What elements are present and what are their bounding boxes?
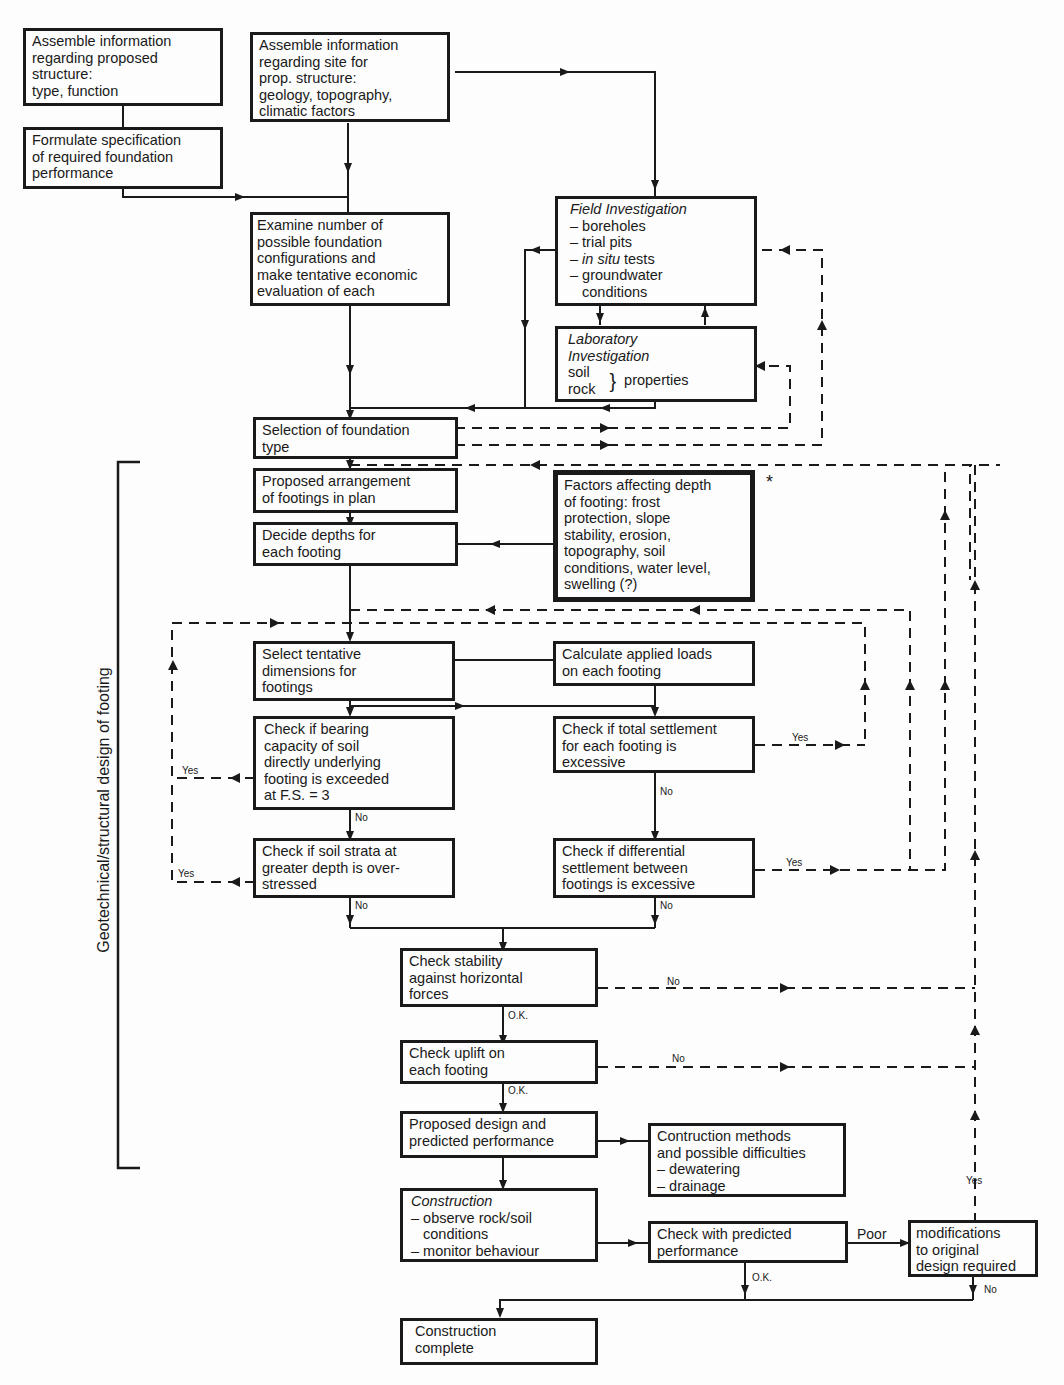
box-select-tentative-dimensions: Select tentative dimensions for footings: [253, 641, 455, 701]
box-text: Check if differential: [562, 843, 746, 860]
box-text: modifications: [916, 1225, 1029, 1242]
box-text: structure:: [32, 66, 214, 83]
box-text: footings: [262, 679, 446, 696]
soil-rock-properties: soil rock } properties: [568, 364, 748, 397]
box-text: to original: [916, 1242, 1029, 1259]
box-title: Construction: [411, 1193, 589, 1210]
box-check-bearing-capacity: Check if bearing capacity of soil direct…: [253, 716, 455, 810]
edge-label-yes: Yes: [178, 868, 194, 879]
box-text: prop. structure:: [259, 70, 441, 87]
edge-label-yes: Yes: [786, 857, 802, 868]
box-proposed-arrangement: Proposed arrangement of footings in plan: [253, 468, 458, 513]
box-check-stability-horizontal: Check stability against horizontal force…: [400, 948, 598, 1007]
box-text: climatic factors: [259, 103, 441, 120]
box-text: tests: [620, 251, 655, 267]
box-text: Proposed arrangement: [262, 473, 449, 490]
box-text: predicted performance: [409, 1133, 589, 1150]
italic-text: in situ: [582, 251, 620, 267]
box-text: performance: [32, 165, 214, 182]
box-text: directly underlying: [264, 754, 446, 771]
box-text: – dewatering: [657, 1161, 837, 1178]
box-text: conditions: [411, 1226, 589, 1243]
edge-label-poor: Poor: [857, 1226, 887, 1242]
box-text: footings is excessive: [562, 876, 746, 893]
box-text: make tentative economic: [257, 267, 441, 284]
box-text: type: [262, 439, 449, 456]
box-text: complete: [415, 1340, 589, 1357]
box-text: – trial pits: [570, 234, 748, 251]
box-text: Check stability: [409, 953, 589, 970]
box-text: Contruction methods: [657, 1128, 837, 1145]
box-text: protection, slope: [564, 510, 744, 527]
edge-label-no: No: [355, 812, 368, 823]
box-check-predicted-performance: Check with predicted performance: [648, 1221, 848, 1263]
box-text: and possible difficulties: [657, 1145, 837, 1162]
box-assemble-site-info: Assemble information regarding site for …: [250, 32, 450, 122]
edge-label-yes: Yes: [966, 1175, 982, 1186]
box-text: configurations and: [257, 250, 441, 267]
box-text: design required: [916, 1258, 1029, 1275]
section-label-geotechnical-design: Geotechnical/structural design of footin…: [95, 570, 113, 1050]
box-text: type, function: [32, 83, 214, 100]
box-text: Proposed design and: [409, 1116, 589, 1133]
box-text: Selection of foundation: [262, 422, 449, 439]
box-text: performance: [657, 1243, 839, 1260]
box-text: each footing: [409, 1062, 589, 1079]
box-text: regarding site for: [259, 54, 441, 71]
box-text: topography, soil: [564, 543, 744, 560]
edge-label-no: No: [355, 900, 368, 911]
edge-label-ok: O.K.: [508, 1010, 528, 1021]
box-text: Calculate applied loads: [562, 646, 746, 663]
box-selection-foundation-type: Selection of foundation type: [253, 417, 458, 459]
box-text: regarding proposed: [32, 50, 214, 67]
box-text: – in situ tests: [570, 251, 748, 268]
box-text: at F.S. = 3: [264, 787, 446, 804]
box-text: of footing: frost: [564, 494, 744, 511]
box-decide-depths: Decide depths for each footing: [253, 522, 458, 566]
box-text: conditions: [570, 284, 748, 301]
box-text: Check with predicted: [657, 1226, 839, 1243]
box-construction-methods: Contruction methods and possible difficu…: [648, 1123, 846, 1197]
edge-label-no: No: [672, 1053, 685, 1064]
box-text: Check if total settlement: [562, 721, 746, 738]
edge-label-yes: Yes: [182, 765, 198, 776]
box-text: each footing: [262, 544, 449, 561]
box-check-differential-settlement: Check if differential settlement between…: [553, 838, 755, 898]
box-text: Select tentative: [262, 646, 446, 663]
brace-icon: }: [609, 373, 616, 389]
box-text: of required foundation: [32, 149, 214, 166]
edge-label-no: No: [660, 786, 673, 797]
asterisk-footnote-icon: *: [766, 472, 773, 493]
box-text: Construction: [415, 1323, 589, 1340]
box-title: Laboratory: [568, 331, 748, 348]
box-text: possible foundation: [257, 234, 441, 251]
box-text: – drainage: [657, 1178, 837, 1195]
edge-label-ok: O.K.: [508, 1085, 528, 1096]
box-text: – monitor behaviour: [411, 1243, 589, 1260]
box-check-uplift: Check uplift on each footing: [400, 1040, 598, 1084]
box-text: of footings in plan: [262, 490, 449, 507]
box-text: excessive: [562, 754, 746, 771]
box-calculate-applied-loads: Calculate applied loads on each footing: [553, 641, 755, 686]
box-text: on each footing: [562, 663, 746, 680]
box-text: Check if bearing: [264, 721, 446, 738]
box-check-total-settlement: Check if total settlement for each footi…: [553, 716, 755, 773]
box-text: Check uplift on: [409, 1045, 589, 1062]
box-text: – groundwater: [570, 267, 748, 284]
box-factors-affecting-depth: Factors affecting depth of footing: fros…: [553, 470, 755, 602]
edge-label-no: No: [660, 900, 673, 911]
box-text: evaluation of each: [257, 283, 441, 300]
edge-label-no: No: [984, 1284, 997, 1295]
box-construction-complete: Construction complete: [400, 1318, 598, 1365]
box-text: Decide depths for: [262, 527, 449, 544]
box-text: footing is exceeded: [264, 771, 446, 788]
box-field-investigation: Field Investigation – boreholes – trial …: [555, 196, 757, 306]
box-proposed-design: Proposed design and predicted performanc…: [400, 1111, 598, 1158]
edge-label-ok: O.K.: [752, 1272, 772, 1283]
box-text: Factors affecting depth: [564, 477, 744, 494]
box-text: stressed: [262, 876, 446, 893]
box-modifications-required: modifications to original design require…: [908, 1220, 1038, 1277]
box-text: – boreholes: [570, 218, 748, 235]
box-text: Formulate specification: [32, 132, 214, 149]
box-text: for each footing is: [562, 738, 746, 755]
